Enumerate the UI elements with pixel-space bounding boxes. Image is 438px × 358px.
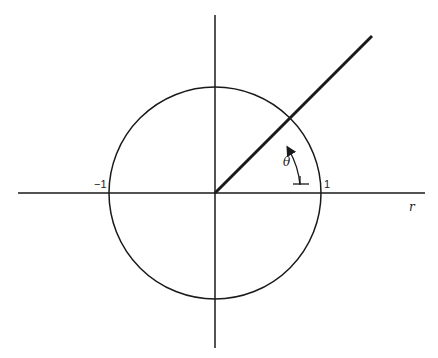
label-theta: θ <box>283 155 291 169</box>
label-neg-one: −1 <box>94 178 107 190</box>
unit-circle-diagram: −1 1 r θ <box>0 0 438 358</box>
theta-arc-arrow <box>289 150 300 185</box>
angle-ray <box>215 36 372 193</box>
label-pos-one: 1 <box>324 178 330 190</box>
label-r-axis: r <box>409 200 416 214</box>
